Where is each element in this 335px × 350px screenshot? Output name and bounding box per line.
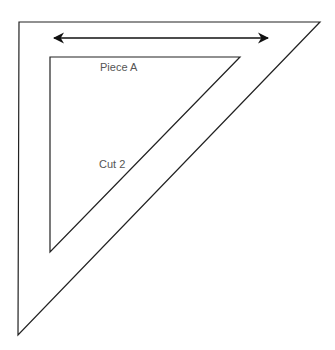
piece-a-label: Piece A	[100, 62, 137, 73]
diagram-svg	[0, 0, 335, 350]
inner-triangle-piece-a	[50, 57, 240, 252]
outer-triangle	[18, 22, 320, 335]
diagram-canvas: Piece A Cut 2	[0, 0, 335, 350]
cut-2-label: Cut 2	[99, 159, 125, 170]
